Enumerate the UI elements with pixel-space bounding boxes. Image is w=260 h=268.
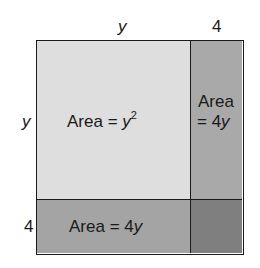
region-right-4y: Area = 4y [191, 41, 242, 200]
area-prefix: Area = 4 [69, 217, 134, 236]
region-corner-16 [191, 200, 242, 253]
region-bottom-4y: Area = 4y [37, 200, 191, 253]
area-var: y [221, 112, 230, 131]
top-label-4: 4 [212, 18, 221, 35]
area-model-square: Area = y2 Area = 4y Area = 4y [36, 40, 244, 255]
area-var: y [134, 217, 143, 236]
area-prefix: = 4 [197, 112, 221, 131]
side-label-y: y [22, 113, 31, 130]
area-var: y [122, 112, 131, 131]
area-label-y-squared: Area = y2 [67, 113, 137, 130]
top-label-y: y [118, 18, 127, 35]
area-label-right-line2: = 4y [197, 113, 230, 130]
area-prefix: Area = [67, 112, 122, 131]
side-label-4: 4 [24, 218, 33, 235]
area-exponent: 2 [131, 109, 137, 121]
area-label-bottom: Area = 4y [69, 218, 142, 235]
area-label-right-line1: Area [198, 93, 234, 110]
region-y-squared: Area = y2 [37, 41, 191, 200]
